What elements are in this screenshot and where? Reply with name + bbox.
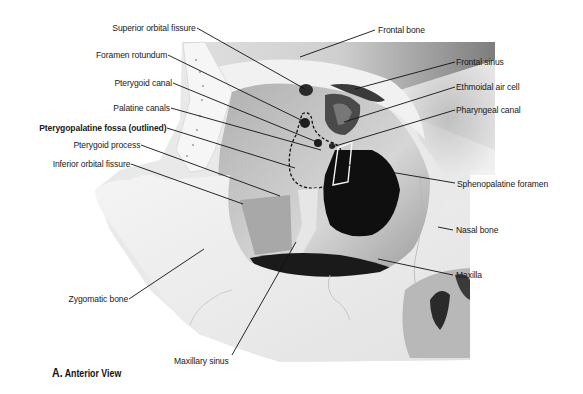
label-nasal-bone: Nasal bone xyxy=(456,224,498,235)
figure-caption: A. Anterior View xyxy=(52,366,121,380)
label-ethmoidal-air-cell: Ethmoidal air cell xyxy=(456,81,519,92)
anatomy-figure: Superior orbital fissure Foramen rotundu… xyxy=(0,0,583,394)
label-pterygopalatine-fossa: Pterygopalatine fossa (outlined) xyxy=(39,122,166,133)
label-frontal-bone: Frontal bone xyxy=(378,24,425,35)
caption-text: Anterior View xyxy=(65,368,122,379)
label-zygomatic-bone: Zygomatic bone xyxy=(68,293,128,304)
label-superior-orbital-fissure: Superior orbital fissure xyxy=(113,22,196,33)
caption-letter: A. xyxy=(52,366,63,380)
label-maxillary-sinus: Maxillary sinus xyxy=(174,355,229,366)
label-pterygoid-process: Pterygoid process xyxy=(73,139,140,150)
label-palatine-canals: Palatine canals xyxy=(113,102,170,113)
label-pterygoid-canal: Pterygoid canal xyxy=(114,77,172,88)
label-inferior-orbital-fissure: Inferior orbital fissure xyxy=(52,158,130,169)
label-foramen-rotundum: Foramen rotundum xyxy=(96,49,167,60)
skull-photo xyxy=(95,42,495,362)
label-pharyngeal-canal: Pharyngeal canal xyxy=(456,104,521,115)
label-maxilla: Maxilla xyxy=(456,269,482,280)
label-frontal-sinus: Frontal sinus xyxy=(456,56,504,67)
label-sphenopalatine-foramen: Sphenopalatine foramen xyxy=(457,178,548,189)
